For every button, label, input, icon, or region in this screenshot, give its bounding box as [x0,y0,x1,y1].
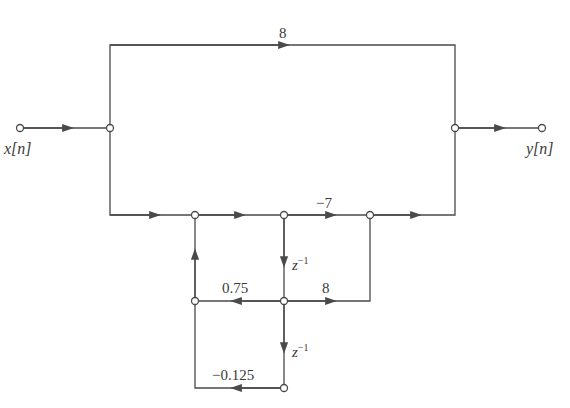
gain-a1: 0.75 [222,281,248,296]
delay-in-node [281,212,288,219]
sum-output-node [452,125,459,132]
sum-node-w [192,212,199,219]
gain-top-feedforward: 8 [279,26,287,41]
input-label: x[n] [4,141,32,157]
gain-a2: −0.125 [212,368,254,383]
delay-exp: −1 [298,255,309,266]
sum-node-b [367,212,374,219]
sum-node-a [192,298,199,305]
delay-label-2: z−1 [292,343,308,360]
feedforward-path [110,45,455,128]
delay-label-1: z−1 [292,256,308,273]
output-label: y[n] [526,141,554,157]
gain-b2: 8 [322,281,330,296]
delay-mid-node [281,298,288,305]
signal-flow-graph [0,0,570,408]
delay-exp: −1 [298,342,309,353]
split-node [107,125,114,132]
main-path [110,128,455,215]
delay-out-node [281,385,288,392]
output-node [539,125,546,132]
input-node [17,125,24,132]
gain-b1: −7 [316,196,332,211]
